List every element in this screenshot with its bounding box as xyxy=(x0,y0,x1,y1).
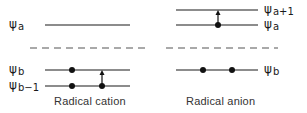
arrow-head-icon xyxy=(216,10,221,15)
caption-radical-cation: Radical cation xyxy=(54,95,126,107)
electron-dot xyxy=(200,67,206,73)
label-psi-b-anion: ψb xyxy=(264,63,279,78)
caption-radical-anion: Radical anion xyxy=(186,95,255,107)
electron-dot xyxy=(69,67,75,73)
electron-dot xyxy=(229,67,235,73)
arrow-head-icon xyxy=(100,70,105,75)
electron-dot xyxy=(69,83,75,89)
label-psi-b: ψb xyxy=(9,63,24,78)
label-psi-a: ψa xyxy=(9,18,24,33)
label-psi-a-plus-1: ψa+1 xyxy=(264,3,294,18)
orbital-diagram xyxy=(0,0,307,113)
label-psi-b-minus-1: ψb−1 xyxy=(9,79,39,94)
label-psi-a-anion: ψa xyxy=(264,18,279,33)
